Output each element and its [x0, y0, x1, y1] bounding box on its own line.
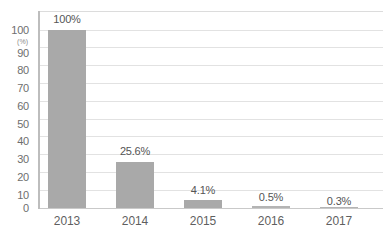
- y-tick-100: 100: [11, 25, 29, 36]
- y-tick-0: 0: [23, 203, 29, 214]
- y-tick-70: 70: [17, 83, 29, 94]
- x-tick-2015: 2015: [173, 214, 233, 228]
- x-tick-2017: 2017: [309, 214, 369, 228]
- x-tick-2014: 2014: [105, 214, 165, 228]
- value-label-2015: 4.1%: [173, 185, 233, 196]
- value-label-2014: 25.6%: [105, 146, 165, 157]
- y-tick-50: 50: [17, 119, 29, 130]
- y-tick-40: 40: [17, 136, 29, 147]
- x-tick-2013: 2013: [37, 214, 97, 228]
- y-tick-80: 80: [17, 65, 29, 76]
- y-axis-labels: 100 (%) 90 80 70 60 50 40 30 20 10 0: [0, 0, 34, 238]
- y-axis-unit-label: (%): [17, 38, 28, 45]
- value-label-2017: 0.3%: [309, 196, 369, 207]
- value-labels-layer: 100% 25.6% 4.1% 0.5% 0.3%: [38, 0, 383, 238]
- y-tick-10: 10: [17, 190, 29, 201]
- value-label-2013: 100%: [37, 14, 97, 25]
- y-tick-20: 20: [17, 172, 29, 183]
- y-tick-90: 90: [17, 48, 29, 59]
- y-tick-60: 60: [17, 101, 29, 112]
- x-axis-labels: 2013 2014 2015 2016 2017: [38, 214, 383, 234]
- x-tick-2016: 2016: [241, 214, 301, 228]
- value-label-2016: 0.5%: [241, 192, 301, 203]
- bar-chart: 100 (%) 90 80 70 60 50 40 30 20 10 0 100…: [0, 0, 384, 238]
- y-tick-30: 30: [17, 154, 29, 165]
